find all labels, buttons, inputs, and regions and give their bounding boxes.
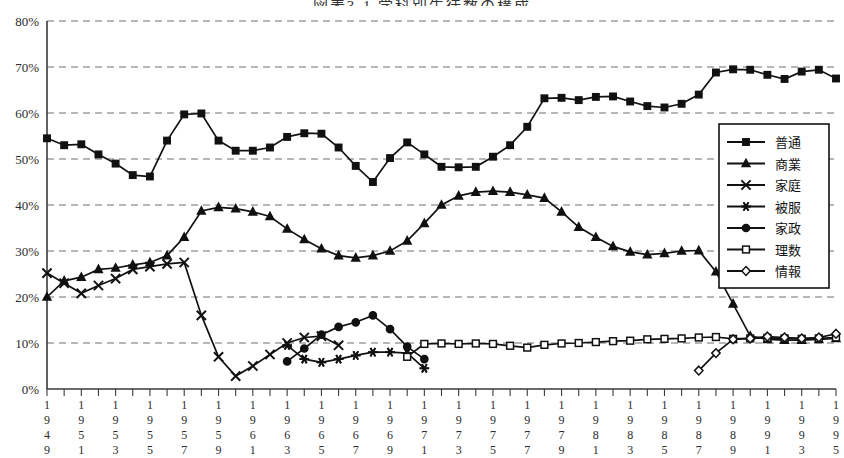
marker-open-square bbox=[455, 341, 462, 348]
marker-asterisk bbox=[351, 351, 361, 359]
y-axis-tick-label: 40% bbox=[15, 198, 39, 213]
marker-square bbox=[421, 151, 427, 157]
x-label-digit: 7 bbox=[490, 428, 496, 442]
marker-square bbox=[507, 142, 513, 148]
marker-asterisk bbox=[334, 355, 344, 363]
marker-square bbox=[232, 148, 238, 154]
marker-square bbox=[267, 144, 273, 150]
marker-triangle bbox=[523, 191, 531, 198]
marker-circle bbox=[386, 326, 393, 333]
x-label-digit: 7 bbox=[559, 428, 565, 442]
x-label-digit: 1 bbox=[216, 398, 222, 412]
marker-square bbox=[678, 101, 684, 107]
marker-x bbox=[197, 311, 206, 320]
x-label-digit: 9 bbox=[44, 443, 50, 457]
marker-open-square bbox=[743, 246, 750, 253]
x-label-digit: 1 bbox=[284, 398, 290, 412]
x-label-digit: 9 bbox=[421, 413, 427, 427]
x-label-digit: 1 bbox=[490, 398, 496, 412]
marker-triangle bbox=[232, 204, 240, 211]
marker-circle bbox=[421, 356, 428, 363]
x-label-digit: 9 bbox=[387, 413, 393, 427]
marker-triangle bbox=[266, 212, 274, 219]
x-axis-tick-label: 1995 bbox=[833, 398, 839, 457]
marker-square bbox=[558, 95, 564, 101]
marker-triangle bbox=[77, 273, 85, 280]
x-label-digit: 9 bbox=[661, 413, 667, 427]
marker-asterisk bbox=[385, 348, 395, 356]
marker-x bbox=[111, 274, 120, 283]
marker-square bbox=[661, 104, 667, 110]
marker-triangle bbox=[112, 264, 120, 271]
x-label-digit: 5 bbox=[78, 428, 84, 442]
marker-asterisk bbox=[368, 348, 378, 356]
marker-open-square bbox=[627, 337, 634, 344]
marker-square bbox=[473, 164, 479, 170]
marker-circle bbox=[318, 331, 325, 338]
x-label-digit: 9 bbox=[696, 413, 702, 427]
y-axis-tick-label: 10% bbox=[15, 336, 39, 351]
x-label-digit: 6 bbox=[353, 428, 359, 442]
marker-square bbox=[833, 75, 839, 81]
marker-square bbox=[284, 134, 290, 140]
x-label-digit: 7 bbox=[353, 443, 359, 457]
marker-square bbox=[44, 135, 50, 141]
marker-triangle bbox=[695, 246, 703, 253]
legend: 普通商業家庭被服家政理数情報 bbox=[719, 124, 829, 288]
marker-open-square bbox=[541, 341, 548, 348]
legend-label: 家庭 bbox=[775, 178, 801, 193]
x-label-digit: 9 bbox=[833, 413, 839, 427]
x-label-digit: 7 bbox=[421, 428, 427, 442]
marker-square bbox=[181, 111, 187, 117]
marker-asterisk bbox=[317, 358, 327, 366]
marker-open-square bbox=[695, 334, 702, 341]
x-label-digit: 9 bbox=[559, 413, 565, 427]
marker-triangle bbox=[661, 249, 669, 256]
x-label-digit: 5 bbox=[147, 428, 153, 442]
marker-circle bbox=[404, 343, 411, 350]
x-axis-tick-label: 1973 bbox=[456, 398, 462, 457]
x-label-digit: 1 bbox=[593, 443, 599, 457]
x-label-digit: 5 bbox=[833, 443, 839, 457]
marker-square bbox=[798, 68, 804, 74]
x-label-digit: 8 bbox=[730, 428, 736, 442]
marker-triangle bbox=[455, 192, 463, 199]
marker-square bbox=[318, 131, 324, 137]
marker-triangle bbox=[609, 242, 617, 249]
x-label-digit: 8 bbox=[661, 428, 667, 442]
x-label-digit: 9 bbox=[730, 443, 736, 457]
x-label-digit: 1 bbox=[421, 398, 427, 412]
x-axis-tick-label: 1953 bbox=[113, 398, 119, 457]
x-label-digit: 6 bbox=[318, 428, 324, 442]
marker-triangle bbox=[369, 251, 377, 258]
x-axis-tick-label: 1969 bbox=[387, 398, 393, 457]
x-label-digit: 5 bbox=[318, 443, 324, 457]
marker-open-square bbox=[421, 341, 428, 348]
x-label-digit: 5 bbox=[216, 428, 222, 442]
x-label-digit: 5 bbox=[661, 443, 667, 457]
x-axis-tick-label: 1983 bbox=[627, 398, 633, 457]
y-axis-tick-label: 80% bbox=[15, 14, 39, 29]
x-label-digit: 1 bbox=[833, 398, 839, 412]
marker-triangle bbox=[626, 248, 634, 255]
marker-open-square bbox=[472, 340, 479, 347]
x-label-digit: 9 bbox=[764, 428, 770, 442]
marker-square bbox=[644, 103, 650, 109]
x-label-digit: 1 bbox=[78, 398, 84, 412]
marker-triangle bbox=[541, 194, 549, 201]
marker-triangle bbox=[489, 187, 497, 194]
x-label-digit: 1 bbox=[593, 398, 599, 412]
marker-square bbox=[95, 151, 101, 157]
marker-circle bbox=[284, 358, 291, 365]
x-label-digit: 1 bbox=[627, 398, 633, 412]
x-label-digit: 3 bbox=[456, 443, 462, 457]
marker-square bbox=[696, 91, 702, 97]
marker-x bbox=[231, 372, 240, 381]
marker-square bbox=[627, 98, 633, 104]
marker-square bbox=[524, 124, 530, 130]
marker-square bbox=[743, 139, 749, 145]
y-axis-tick-label: 70% bbox=[15, 60, 39, 75]
x-label-digit: 5 bbox=[181, 428, 187, 442]
x-label-digit: 9 bbox=[559, 443, 565, 457]
marker-square bbox=[301, 130, 307, 136]
